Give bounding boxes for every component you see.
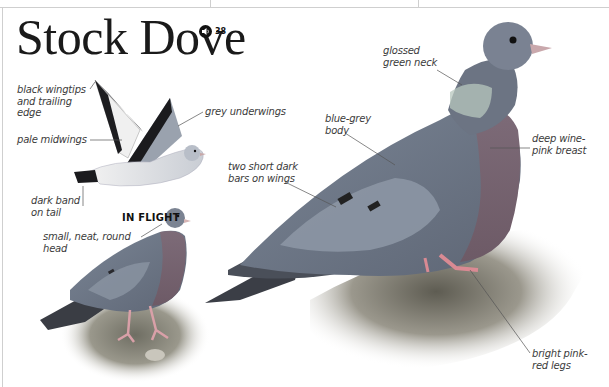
label-glossed-green-neck: glossed green neck [383,45,437,68]
speaker-icon[interactable] [199,25,212,38]
label-blue-grey-body: blue-grey body [325,113,371,136]
audio-track-number: 38 [215,27,226,36]
flight-bird [74,80,206,186]
label-two-wing-bars: two short dark bars on wings [228,161,298,184]
label-pale-midwings: pale midwings [17,134,87,146]
label-small-round-head: small, neat, round head [43,231,131,254]
field-guide-page: Stock Dove 38 black wingtips and trailin… [0,0,609,387]
label-black-wingtips: black wingtips and trailing edge [17,84,86,119]
label-pink-red-legs: bright pink- red legs [532,348,588,371]
in-flight-heading: IN FLIGHT [122,212,180,223]
label-wine-pink-breast: deep wine- pink breast [532,133,586,156]
label-dark-band-tail: dark band on tail [31,195,80,218]
label-grey-underwings: grey underwings [205,106,286,118]
